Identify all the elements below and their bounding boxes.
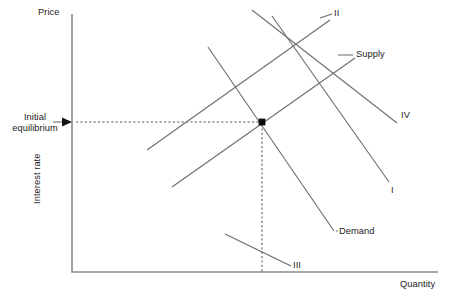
supply-demand-diagram: Price Quantity Interest rate Initialequi… [0,0,452,297]
y-axis-label-price: Price [38,7,59,18]
curve-shift-iii [225,234,291,266]
curve-label-i: I [391,185,394,196]
initial-equilibrium-label-line2: equilibrium [12,123,58,133]
curve-demand-shift-iv [252,10,397,123]
curve-label-ii: II [334,8,339,19]
curve-shift-i [272,16,389,182]
curve-demand [208,47,334,231]
curve-label-supply: Supply [356,49,385,60]
guides-group [76,122,262,272]
curve-supply-shift-ii [147,20,330,150]
leader-lines-group [320,14,353,231]
curve-label-iv: IV [401,110,410,121]
equilibrium-point-marker [259,119,266,126]
curve-label-demand: Demand [339,226,375,237]
leader-ii [320,14,332,18]
y-axis-label-interest-rate: Interest rate [32,134,43,224]
initial-equilibrium-label-line1: Initial [24,112,46,122]
diagram-canvas [0,0,452,297]
initial-equilibrium-label: Initialequilibrium [4,112,66,134]
curve-label-iii: III [293,260,301,271]
x-axis-label-quantity: Quantity [400,279,435,290]
